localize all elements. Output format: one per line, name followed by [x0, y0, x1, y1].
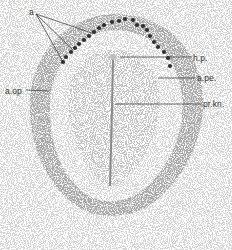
- dot-marker: [168, 64, 172, 68]
- dot-marker: [156, 45, 160, 49]
- dot-marker: [117, 19, 121, 23]
- dot-marker: [131, 18, 135, 22]
- dot-marker: [82, 38, 86, 42]
- label-hp: h.p.: [193, 54, 208, 63]
- dot-marker: [102, 23, 106, 27]
- hensens-node: [110, 54, 116, 60]
- dot-marker: [141, 24, 145, 28]
- label-ape: a.pe.: [197, 74, 216, 83]
- dot-marker: [148, 34, 152, 38]
- dot-marker: [97, 26, 101, 30]
- dot-marker: [162, 50, 166, 54]
- dot-marker: [61, 60, 65, 64]
- label-aop: a.op: [5, 87, 22, 96]
- dot-marker: [73, 46, 77, 50]
- dot-marker: [69, 50, 73, 54]
- label-a: a: [29, 8, 34, 17]
- dot-marker: [92, 30, 96, 34]
- dot-marker: [110, 20, 114, 24]
- dot-marker: [64, 55, 68, 59]
- dot-marker: [135, 23, 139, 27]
- dot-marker: [166, 56, 170, 60]
- dot-marker: [87, 34, 91, 38]
- embryo-diagram: [0, 0, 232, 250]
- dot-marker: [145, 28, 149, 32]
- dot-marker: [77, 42, 81, 46]
- dot-marker: [123, 17, 127, 21]
- label-prkn: pr.kn.: [203, 100, 224, 109]
- dot-marker: [152, 40, 156, 44]
